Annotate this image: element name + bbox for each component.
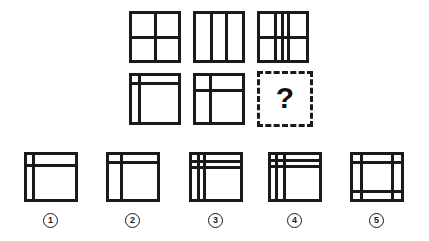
horizontal-rule-1 xyxy=(109,161,157,164)
horizontal-rule-1 xyxy=(27,164,75,167)
answer-option-4-number-badge[interactable]: 4 xyxy=(287,213,302,228)
answer-option-5-figure[interactable] xyxy=(350,152,404,202)
answer-option-3-number-badge[interactable]: 3 xyxy=(208,213,223,228)
missing-cell-question-mark: ? xyxy=(257,71,313,127)
question-mark-label: ? xyxy=(276,83,294,113)
horizontal-rule-1 xyxy=(132,36,178,39)
horizontal-rule-1 xyxy=(271,159,319,162)
answer-option-1-figure[interactable] xyxy=(24,152,78,202)
answer-option-5-number-badge[interactable]: 5 xyxy=(369,213,384,228)
square-narrow-left-and-top-bands xyxy=(129,73,181,125)
vertical-rule-2 xyxy=(225,14,228,60)
horizontal-rule-2 xyxy=(192,166,240,169)
answer-option-2-number-badge[interactable]: 2 xyxy=(125,213,140,228)
answer-option-2-figure[interactable] xyxy=(106,152,160,202)
answer-option-4-figure[interactable] xyxy=(268,152,322,202)
matrix-grid: ? xyxy=(0,0,429,140)
square-left-and-top-bands xyxy=(193,73,245,125)
square-2x2-grid xyxy=(129,11,181,63)
horizontal-rule-2 xyxy=(271,165,319,168)
vertical-rule-1 xyxy=(32,155,35,199)
horizontal-rule-1 xyxy=(260,36,306,39)
horizontal-rule-1 xyxy=(353,161,401,164)
vertical-rule-1 xyxy=(210,14,213,60)
horizontal-rule-2 xyxy=(353,190,401,193)
vertical-rule-1 xyxy=(209,76,212,122)
horizontal-rule-1 xyxy=(192,160,240,163)
horizontal-rule-1 xyxy=(132,82,178,85)
square-overlay-columns-and-row xyxy=(257,11,309,63)
answer-option-3-figure[interactable] xyxy=(189,152,243,202)
answer-options-row: 12345 xyxy=(0,144,429,241)
square-three-columns xyxy=(193,11,245,63)
horizontal-rule-1 xyxy=(196,89,242,92)
answer-option-1-number-badge[interactable]: 1 xyxy=(43,213,58,228)
